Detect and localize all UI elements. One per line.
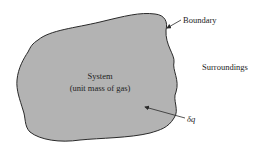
boundary-label: Boundary <box>183 15 217 25</box>
system-diagram: System (unit mass of gas) Boundary Surro… <box>0 0 267 150</box>
surroundings-label: Surroundings <box>202 62 248 72</box>
boundary-arrow <box>167 20 181 28</box>
system-label: System <box>87 71 112 81</box>
system-sublabel: (unit mass of gas) <box>70 83 131 93</box>
heat-label: δq <box>187 114 196 124</box>
